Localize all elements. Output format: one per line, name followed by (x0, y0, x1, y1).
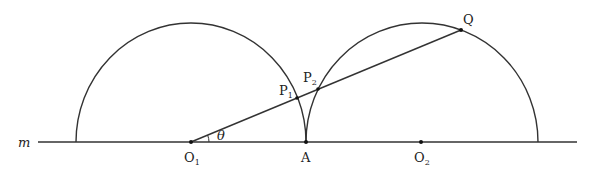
angle-theta-arc (208, 135, 209, 142)
point-p1 (295, 96, 299, 100)
point-o2 (419, 140, 423, 144)
label-p2: P2 (303, 70, 317, 87)
label-q: Q (463, 12, 474, 27)
point-p2 (316, 87, 320, 91)
point-a (304, 140, 308, 144)
semicircle-o1 (76, 23, 306, 142)
label-o1: O1 (184, 150, 200, 167)
point-o1 (189, 140, 193, 144)
point-q (459, 28, 463, 32)
angle-theta-label: θ (217, 128, 225, 143)
semicircle-o2 (306, 23, 538, 142)
segment-o1-q (191, 30, 461, 142)
geometry-diagram: m θ O1 A O2 P1 P2 Q (0, 0, 592, 171)
label-p1: P1 (279, 83, 293, 100)
label-o2: O2 (414, 150, 430, 167)
line-m-label: m (18, 135, 30, 150)
label-a: A (300, 150, 311, 165)
